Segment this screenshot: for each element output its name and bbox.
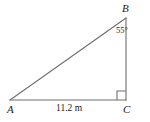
right-angle-icon xyxy=(117,91,126,100)
side-ac-length-label: 11.2 m xyxy=(56,104,82,114)
vertex-label-a: A xyxy=(7,104,14,115)
side-ab-line xyxy=(10,18,126,100)
angle-label-b: 55° xyxy=(116,26,128,35)
geometry-figure: A B C 11.2 m 55° xyxy=(0,0,150,122)
vertex-label-c: C xyxy=(123,104,130,115)
vertex-label-b: B xyxy=(122,3,129,14)
